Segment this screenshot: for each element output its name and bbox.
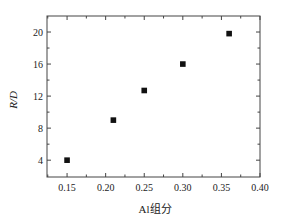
- x-axis-title: Al组分: [139, 202, 172, 215]
- data-point-square: [64, 157, 70, 163]
- data-point-square: [141, 88, 147, 94]
- data-points: [64, 31, 232, 163]
- y-tick-label: 12: [33, 91, 43, 102]
- data-point-square: [111, 117, 117, 123]
- x-tick-label: 0.25: [135, 182, 153, 193]
- data-point-square: [226, 31, 232, 37]
- x-axis-ticks: 0.150.200.250.300.350.40: [48, 16, 269, 193]
- y-tick-label: 16: [33, 59, 43, 70]
- y-axis-ticks: 48121620: [33, 27, 260, 166]
- y-tick-label: 20: [33, 27, 43, 38]
- plot-border: [47, 16, 260, 177]
- scatter-chart: 0.150.200.250.300.350.40 48121620 Al组分 R…: [0, 0, 284, 224]
- plot-frame: [47, 16, 260, 177]
- x-tick-label: 0.40: [251, 182, 269, 193]
- y-axis-title: R/D: [7, 91, 19, 110]
- data-point-square: [180, 61, 186, 67]
- x-tick-label: 0.15: [58, 182, 76, 193]
- y-tick-label: 8: [38, 123, 43, 134]
- x-tick-label: 0.35: [213, 182, 231, 193]
- x-tick-label: 0.20: [97, 182, 115, 193]
- x-tick-label: 0.30: [174, 182, 192, 193]
- y-tick-label: 4: [38, 155, 43, 166]
